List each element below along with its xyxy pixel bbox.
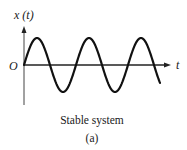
origin-label: O	[9, 59, 18, 73]
y-axis-arrow-icon	[22, 26, 27, 33]
x-axis-label: t	[176, 58, 180, 72]
figure-sublabel: (a)	[86, 132, 99, 145]
x-axis-arrow-icon	[164, 63, 171, 68]
stable-system-figure: x (t) t O Stable system (a)	[0, 0, 187, 150]
y-axis-label: x (t)	[13, 8, 34, 22]
figure-caption: Stable system	[60, 114, 124, 127]
